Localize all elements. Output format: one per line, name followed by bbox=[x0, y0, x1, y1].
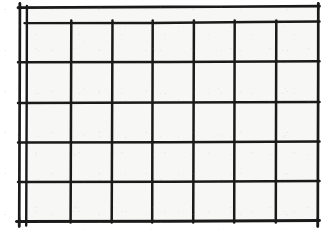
grid-cell bbox=[153, 142, 194, 182]
grid-cell bbox=[235, 182, 277, 222]
grid-cell bbox=[194, 23, 235, 63]
grid-line-horizontal-top-edge bbox=[18, 6, 320, 8]
grid-cell bbox=[276, 182, 318, 222]
grid-cell bbox=[112, 62, 153, 103]
grid-cell bbox=[276, 103, 318, 143]
grid-line-vertical-left-inner-edge bbox=[26, 6, 27, 226]
grid-line-vertical-column-divider-6 bbox=[276, 21, 277, 223]
grid-line-vertical-column-divider-5 bbox=[234, 21, 235, 223]
grid-cell bbox=[112, 23, 153, 63]
grid-line-vertical-column-divider-3 bbox=[152, 21, 153, 223]
grid-cell bbox=[27, 103, 72, 143]
grid-line-vertical-left-outer-edge bbox=[19, 4, 20, 227]
grid-cell bbox=[153, 62, 194, 103]
grid-cell bbox=[27, 7, 72, 23]
grid-cell bbox=[194, 62, 235, 103]
grid-cell bbox=[153, 103, 194, 143]
grid-line-vertical-column-divider-1 bbox=[71, 21, 72, 223]
grid-cell bbox=[276, 142, 318, 182]
grid-cell bbox=[153, 7, 194, 23]
grid-cell bbox=[71, 23, 112, 63]
grid-cell bbox=[112, 142, 153, 182]
grid-cell bbox=[194, 182, 235, 222]
grid-cell bbox=[27, 142, 72, 182]
grid-cell bbox=[71, 182, 112, 222]
hand-drawn-grid-figure: Hand-drawn rectangular grid A freehand i… bbox=[0, 0, 333, 233]
grid-cell bbox=[276, 7, 318, 23]
grid-cell bbox=[71, 103, 112, 143]
grid-cell bbox=[71, 7, 112, 23]
grid-cell bbox=[71, 62, 112, 103]
grid-cell bbox=[112, 182, 153, 222]
grid-cell bbox=[27, 23, 72, 63]
grid-cell bbox=[153, 23, 194, 63]
grid-line-horizontal-row-divider-2 bbox=[18, 61, 320, 62]
grid-cell bbox=[194, 142, 235, 182]
grid-line-horizontal-row-divider-5 bbox=[18, 181, 320, 182]
grid-cell bbox=[71, 142, 112, 182]
grid-cell bbox=[153, 182, 194, 222]
grid-cell bbox=[194, 7, 235, 23]
grid-cell bbox=[235, 23, 277, 63]
grid-line-horizontal-row-divider-4 bbox=[18, 142, 320, 143]
grid-cell bbox=[235, 62, 277, 103]
grid-cell bbox=[235, 142, 277, 182]
grid-cell bbox=[27, 62, 72, 103]
grid-cell bbox=[276, 23, 318, 63]
grid-line-vertical-right-edge bbox=[318, 4, 319, 227]
grid-line-vertical-column-divider-2 bbox=[112, 21, 113, 223]
grid-cell bbox=[112, 7, 153, 23]
grid-cell bbox=[235, 7, 277, 23]
drawing-canvas: Hand-drawn rectangular grid A freehand i… bbox=[0, 0, 333, 233]
grid-cell bbox=[235, 103, 277, 143]
grid-cell bbox=[112, 103, 153, 143]
grid-cell bbox=[276, 62, 318, 103]
grid-cell bbox=[27, 182, 72, 222]
grid-cell bbox=[194, 103, 235, 143]
grid-line-vertical-column-divider-4 bbox=[193, 21, 194, 223]
grid-line-horizontal-bottom-edge bbox=[17, 221, 320, 222]
grid-line-horizontal-row-divider-3 bbox=[18, 102, 320, 103]
